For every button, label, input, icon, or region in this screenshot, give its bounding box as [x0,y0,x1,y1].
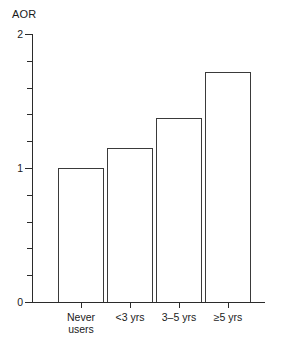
y-axis-minor-tick [27,88,32,89]
bar [58,168,104,302]
y-axis-minor-tick [27,114,32,115]
y-axis-tick-label: 2 [1,29,23,40]
y-axis-minor-tick [27,195,32,196]
y-axis-major-tick [25,168,32,169]
x-axis-tick [179,303,180,308]
y-axis-tick-label: 1 [1,163,23,174]
y-axis-major-tick [25,34,32,35]
bar [156,118,202,302]
bar [107,148,153,302]
x-axis-tick [130,303,131,308]
y-axis-line [32,34,33,303]
x-axis-tick [228,303,229,308]
x-axis-category-label: ≥5 yrs [192,311,264,323]
y-axis-minor-tick [27,61,32,62]
y-axis-minor-tick [27,248,32,249]
y-axis-minor-tick [27,141,32,142]
y-axis-minor-tick [27,222,32,223]
y-axis-title: AOR [12,8,36,21]
bar [205,72,251,302]
bar-chart: AOR 210 Never users<3 yrs3–5 yrs≥5 yrs [0,0,282,351]
x-axis-tick [81,303,82,308]
y-axis-tick-label: 0 [1,297,23,308]
y-axis-major-tick [25,302,32,303]
y-axis-minor-tick [27,275,32,276]
x-axis-line [32,302,265,303]
